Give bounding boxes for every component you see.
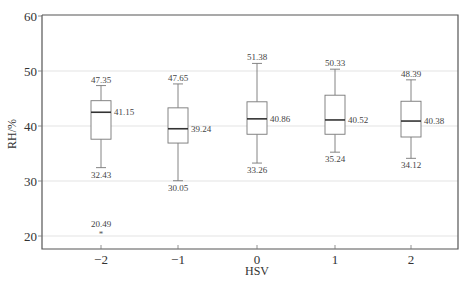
y-tick-label: 30	[24, 174, 37, 189]
min-label: 30.05	[168, 183, 189, 193]
y-tick-label: 20	[24, 229, 37, 244]
x-tick-label: −2	[94, 252, 108, 267]
iqr-box	[91, 101, 111, 140]
box-3: 50.3340.5235.24	[325, 58, 368, 164]
iqr-box	[168, 108, 188, 143]
x-tick-label: 1	[332, 252, 339, 267]
max-label: 47.35	[91, 75, 112, 85]
min-label: 35.24	[325, 154, 346, 164]
y-axis-ticks: 2030405060	[24, 9, 42, 244]
y-tick-label: 60	[24, 9, 37, 24]
outlier-marker: *	[99, 229, 104, 239]
iqr-box	[401, 101, 421, 137]
x-tick-label: 2	[408, 252, 415, 267]
max-label: 51.38	[247, 52, 268, 62]
max-label: 50.33	[325, 58, 346, 68]
min-label: 34.12	[401, 160, 421, 170]
center-label: 40.52	[348, 115, 368, 125]
box-0: 47.3541.1532.43*20.49	[91, 75, 135, 240]
y-tick-label: 50	[24, 64, 37, 79]
max-label: 48.39	[401, 69, 422, 79]
iqr-box	[247, 102, 267, 134]
center-label: 41.15	[114, 107, 135, 117]
center-label: 40.38	[424, 116, 445, 126]
x-axis-title: HSV	[245, 264, 269, 278]
y-gridlines	[42, 71, 458, 236]
x-tick-label: −1	[171, 252, 185, 267]
box-series: 47.3541.1532.43*20.4947.6539.2430.0551.3…	[91, 52, 445, 239]
y-tick-label: 40	[24, 119, 37, 134]
min-label: 33.26	[247, 165, 268, 175]
max-label: 47.65	[168, 73, 189, 83]
iqr-box	[325, 95, 345, 134]
box-4: 48.3940.3834.12	[401, 69, 445, 170]
min-label: 32.43	[91, 170, 112, 180]
center-label: 40.86	[270, 114, 291, 124]
y-axis-title: RH/%	[5, 119, 19, 149]
box-plot-chart: 47.3541.1532.43*20.4947.6539.2430.0551.3…	[0, 0, 467, 283]
box-1: 47.6539.2430.05	[168, 73, 212, 193]
center-label: 39.24	[191, 124, 212, 134]
outlier-label: 20.49	[91, 219, 112, 229]
